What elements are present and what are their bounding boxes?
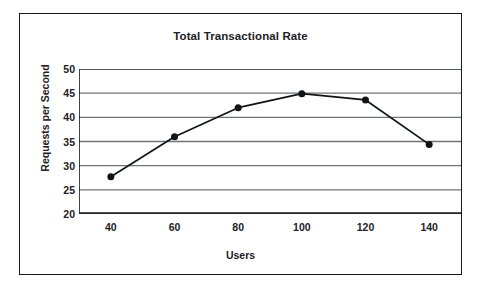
data-point-marker [171,133,178,140]
x-axis-tick-label: 40 [105,221,117,233]
x-axis-tick-label: 120 [357,221,375,233]
series-line-total-transactional-rate [111,94,429,177]
y-axis-tick-labels: 50454035302520 [47,69,75,214]
y-axis-tick-label: 35 [51,136,75,148]
line-chart-svg [79,69,461,214]
chart-screenshot: Total Transactional Rate Requests per Se… [0,0,482,291]
y-axis-tick-label: 20 [51,208,75,220]
data-point-marker [298,90,305,97]
gridlines [79,69,461,190]
data-point-marker [107,173,114,180]
chart-frame: Total Transactional Rate Requests per Se… [19,13,462,275]
series-data-point-markers [107,90,432,180]
x-axis-tick-label: 60 [169,221,181,233]
y-axis-tick-label: 40 [51,111,75,123]
x-axis-tick-label: 80 [232,221,244,233]
x-axis-tick-label: 100 [293,221,311,233]
data-point-marker [362,96,369,103]
data-point-marker [235,104,242,111]
chart-title: Total Transactional Rate [20,30,461,42]
y-axis-tick-label: 30 [51,160,75,172]
x-axis-title: Users [20,249,461,261]
y-axis-tick-label: 45 [51,87,75,99]
x-axis-tick-labels: 406080100120140 [79,221,461,237]
y-axis-tick-label: 25 [51,184,75,196]
x-axis-tick-label: 140 [420,221,438,233]
data-point-marker [426,141,433,148]
plot-area [79,69,461,214]
y-axis-tick-label: 50 [51,63,75,75]
